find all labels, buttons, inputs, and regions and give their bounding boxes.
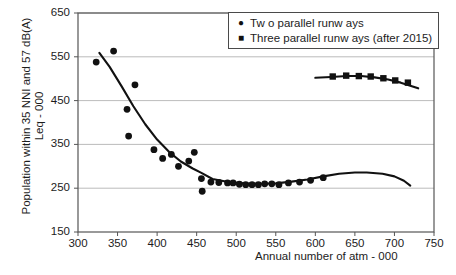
y-tick-label: 650	[36, 6, 70, 18]
data-point-square	[343, 72, 349, 78]
data-point-circle	[320, 174, 327, 181]
data-point-circle	[168, 151, 175, 158]
y-tick-label: 150	[36, 225, 70, 237]
y-tick-label: 550	[36, 50, 70, 62]
data-point-circle	[261, 180, 268, 187]
y-tick-label: 250	[36, 181, 70, 193]
data-point-circle	[307, 177, 314, 184]
data-point-circle	[175, 163, 182, 170]
circle-marker-icon: ●	[235, 18, 247, 28]
data-point-circle	[296, 179, 303, 186]
data-point-square	[405, 79, 411, 85]
x-tick-label: 300	[61, 237, 95, 249]
data-point-square	[380, 75, 386, 81]
data-point-circle	[185, 158, 192, 165]
data-point-circle	[132, 81, 139, 88]
data-point-circle	[285, 180, 292, 187]
data-point-circle	[276, 181, 283, 188]
data-point-square	[330, 73, 336, 79]
data-point-circle	[93, 59, 100, 66]
x-axis-title: Annual number of atm - 000	[255, 250, 398, 262]
data-point-circle	[124, 106, 131, 113]
legend-item-label: Tw o parallel runw ays	[250, 17, 364, 29]
legend-item-label: Three parallel runw ays (after 2015)	[250, 32, 432, 44]
x-tick-label: 350	[101, 237, 135, 249]
x-tick-label: 550	[259, 237, 293, 249]
y-tick-label: 450	[36, 94, 70, 106]
x-tick-label: 500	[219, 237, 253, 249]
x-tick-label: 400	[140, 237, 174, 249]
x-tick-label: 700	[377, 237, 411, 249]
data-point-circle	[255, 181, 262, 188]
data-point-circle	[268, 180, 275, 187]
data-point-circle	[242, 181, 249, 188]
chart-legend: ●Tw o parallel runw ays■Three parallel r…	[228, 12, 439, 49]
square-marker-icon: ■	[235, 33, 247, 43]
data-point-circle	[198, 175, 205, 182]
trend-line-series-0	[99, 53, 410, 186]
x-tick-label: 600	[298, 237, 332, 249]
data-point-square	[368, 73, 374, 79]
data-point-circle	[236, 181, 243, 188]
legend-item[interactable]: ■Three parallel runw ays (after 2015)	[235, 30, 432, 45]
data-point-circle	[151, 146, 158, 153]
data-point-circle	[215, 179, 222, 186]
data-point-square	[392, 77, 398, 83]
chart-figure: Population within 35 NNI and 57 dB(A) Le…	[0, 0, 456, 275]
data-point-circle	[110, 48, 117, 55]
x-tick-label: 650	[338, 237, 372, 249]
y-axis-title: Population within 35 NNI and 57 dB(A) Le…	[20, 1, 46, 231]
data-point-circle	[208, 179, 215, 186]
y-tick-label: 350	[36, 137, 70, 149]
data-point-circle	[230, 180, 237, 187]
x-tick-label: 450	[180, 237, 214, 249]
legend-item[interactable]: ●Tw o parallel runw ays	[235, 15, 432, 30]
data-point-square	[356, 73, 362, 79]
data-point-circle	[191, 149, 198, 156]
x-tick-label: 750	[417, 237, 451, 249]
data-point-circle	[159, 155, 166, 162]
data-point-circle	[199, 188, 206, 195]
data-point-circle	[249, 181, 256, 188]
data-point-circle	[125, 133, 132, 140]
